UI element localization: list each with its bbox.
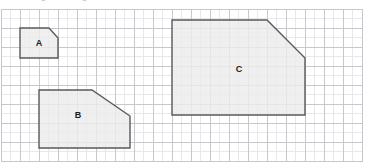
shape-b bbox=[39, 90, 130, 148]
shape-label-a: A bbox=[36, 38, 43, 48]
shape-label-b: B bbox=[75, 110, 82, 120]
similar-figures-diagram: similar figures on grid ABC bbox=[0, 0, 370, 168]
shape-label-c: C bbox=[236, 64, 243, 74]
grid-and-shapes-canvas bbox=[0, 0, 370, 168]
